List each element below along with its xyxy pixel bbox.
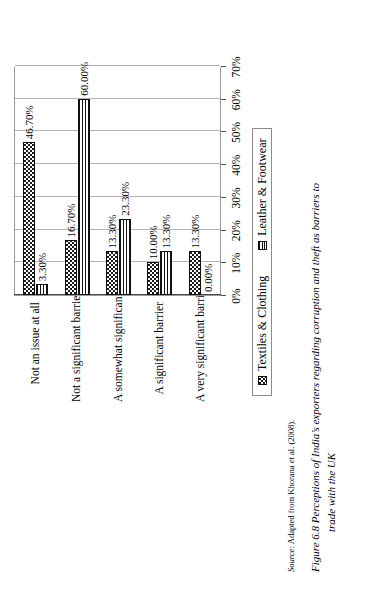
- axis-tick-label: 0%: [230, 288, 242, 303]
- bar-value-label: 3.30%: [37, 253, 48, 281]
- category-label: A significant barrier: [153, 302, 165, 402]
- caption-line-1: Perceptions of India’s exporters regardi…: [309, 183, 321, 523]
- bar-textiles-clothing: [106, 252, 118, 296]
- bar-value-label: 60.00%: [79, 62, 90, 96]
- category-label: Not a significant barrier: [70, 302, 82, 402]
- dotted-square-icon: [258, 376, 267, 385]
- category-label: Not an issue at all: [29, 302, 41, 402]
- axis-tick-mark: [221, 66, 226, 67]
- axis-tick-mark: [221, 262, 226, 263]
- bar-textiles-clothing: [189, 252, 201, 296]
- axis-tick-label: 60%: [230, 89, 242, 110]
- category-label: A very significant barrier: [194, 302, 206, 402]
- chart-legend: Textiles & ClothingLeather & Footwear: [252, 128, 272, 396]
- striped-square-icon: [258, 241, 267, 250]
- bar-value-label: 10.00%: [148, 225, 159, 259]
- bar-value-label: 16.70%: [66, 203, 77, 237]
- gridline: [15, 163, 220, 164]
- bar-leather-footwear: [160, 252, 172, 296]
- axis-tick-mark: [221, 99, 226, 100]
- gridline: [15, 196, 220, 197]
- bar-value-label: 13.30%: [107, 215, 118, 249]
- gridline: [15, 130, 220, 131]
- legend-label: Textiles & Clothing: [255, 276, 270, 371]
- bar-textiles-clothing: [65, 240, 77, 295]
- axis-tick-mark: [221, 197, 226, 198]
- bar-value-label: 23.30%: [120, 182, 131, 216]
- source-label: Source:: [286, 546, 296, 572]
- bar-leather-footwear: [78, 99, 90, 295]
- plot-area: 46.70%3.30%16.70%60.00%13.30%23.30%10.00…: [14, 67, 221, 296]
- gridline: [15, 65, 220, 66]
- axis-tick-label: 30%: [230, 187, 242, 208]
- bar-leather-footwear: [119, 219, 131, 295]
- category-axis: Not an issue at allNot a significant bar…: [14, 296, 221, 400]
- source-note: Source: Adapted from Khorana et al. (200…: [286, 420, 296, 572]
- legend-item: Textiles & Clothing: [255, 276, 270, 385]
- caption-number: Figure 6.8: [309, 526, 321, 572]
- figure-page: Not an issue at allNot a significant bar…: [0, 0, 382, 596]
- source-text: Adapted from Khorana et al. (2008).: [286, 420, 296, 544]
- bar-textiles-clothing: [23, 142, 35, 295]
- axis-tick-label: 20%: [230, 220, 242, 241]
- gridline: [15, 98, 220, 99]
- bar-leather-footwear: [36, 284, 48, 295]
- bar-value-label: 0.00%: [203, 264, 214, 292]
- category-label: A somewhat significant barrier: [111, 302, 123, 402]
- axis-tick-label: 70%: [230, 56, 242, 77]
- axis-tick-label: 40%: [230, 155, 242, 176]
- bar-value-label: 13.30%: [161, 215, 172, 249]
- value-axis: 0%10%20%30%40%50%60%70%: [221, 67, 247, 296]
- bar-chart: Not an issue at allNot a significant bar…: [14, 40, 244, 400]
- bar-textiles-clothing: [147, 262, 159, 295]
- legend-label: Leather & Footwear: [255, 139, 270, 236]
- axis-tick-mark: [221, 131, 226, 132]
- caption-line-2: trade with the UK: [324, 102, 340, 572]
- axis-tick-mark: [221, 295, 226, 296]
- bar-value-label: 46.70%: [24, 105, 35, 139]
- legend-item: Leather & Footwear: [255, 139, 270, 250]
- figure-caption: Figure 6.8 Perceptions of India’s export…: [308, 102, 340, 572]
- axis-tick-mark: [221, 230, 226, 231]
- axis-tick-mark: [221, 164, 226, 165]
- rotated-figure-container: Not an issue at allNot a significant bar…: [0, 0, 382, 596]
- bar-value-label: 13.30%: [190, 215, 201, 249]
- axis-tick-label: 10%: [230, 253, 242, 274]
- plot-inner: 46.70%3.30%16.70%60.00%13.30%23.30%10.00…: [15, 67, 220, 295]
- axis-tick-label: 50%: [230, 122, 242, 143]
